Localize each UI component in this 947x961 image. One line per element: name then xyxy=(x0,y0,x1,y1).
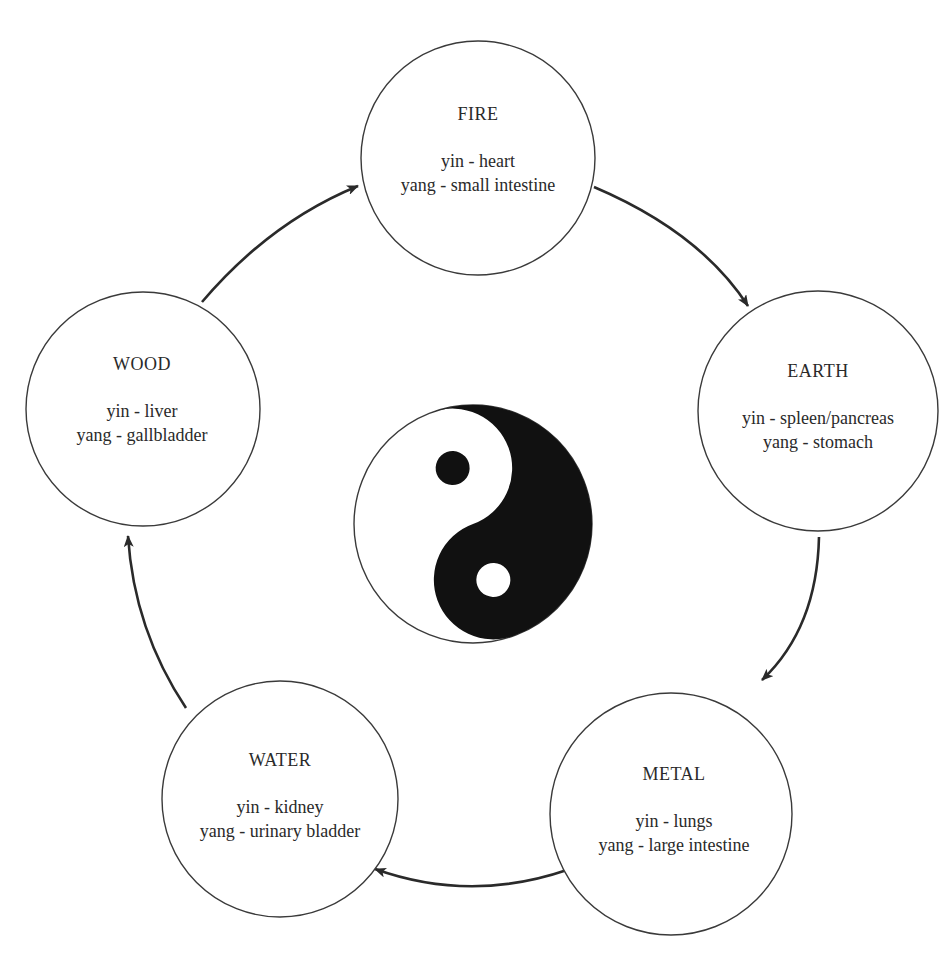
metal-yin-label: yin - lungs xyxy=(554,809,794,833)
yin-yang-icon xyxy=(354,371,626,656)
arrow-earth-to-metal xyxy=(762,537,819,680)
water-yin-label: yin - kidney xyxy=(160,795,400,819)
fire-title: FIRE xyxy=(358,102,598,126)
wood-node: WOOD yin - liver yang - gallbladder xyxy=(22,352,262,447)
fire-yin-label: yin - heart xyxy=(358,149,598,173)
earth-yang-label: yang - stomach xyxy=(698,430,938,454)
water-title: WATER xyxy=(160,748,400,772)
earth-node: EARTH yin - spleen/pancreas yang - stoma… xyxy=(698,359,938,454)
metal-title: METAL xyxy=(554,762,794,786)
water-node: WATER yin - kidney yang - urinary bladde… xyxy=(160,748,400,843)
arrow-wood-to-fire xyxy=(202,186,358,302)
earth-yin-label: yin - spleen/pancreas xyxy=(698,406,938,430)
wood-yin-label: yin - liver xyxy=(22,399,262,423)
metal-node: METAL yin - lungs yang - large intestine xyxy=(554,762,794,857)
fire-node: FIRE yin - heart yang - small intestine xyxy=(358,102,598,197)
arrow-metal-to-water xyxy=(375,869,567,886)
wood-yang-label: yang - gallbladder xyxy=(22,423,262,447)
water-yang-label: yang - urinary bladder xyxy=(160,819,400,843)
wood-title: WOOD xyxy=(22,352,262,376)
earth-title: EARTH xyxy=(698,359,938,383)
arrow-fire-to-earth xyxy=(594,187,748,306)
fire-yang-label: yang - small intestine xyxy=(358,173,598,197)
metal-yang-label: yang - large intestine xyxy=(554,833,794,857)
five-elements-diagram: FIRE yin - heart yang - small intestine … xyxy=(0,0,947,961)
arrow-water-to-wood xyxy=(128,536,186,708)
